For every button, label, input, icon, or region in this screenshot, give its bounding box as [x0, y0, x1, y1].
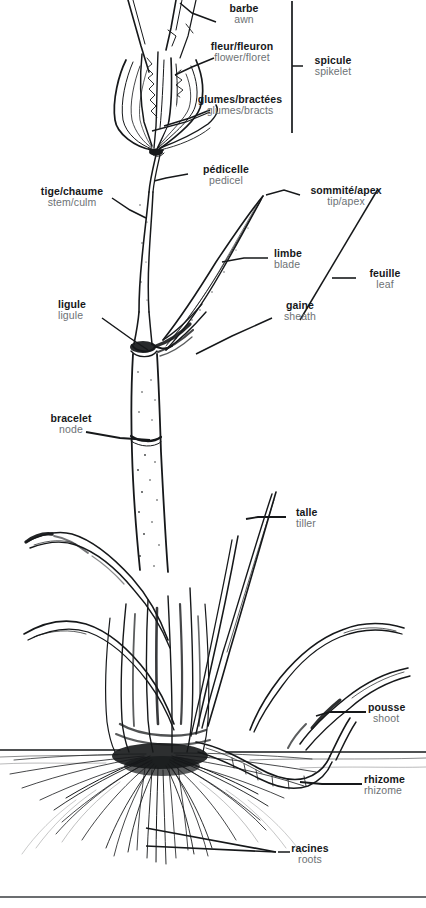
leader-sommite	[266, 190, 300, 195]
label-gaine: gaine sheath	[272, 300, 328, 321]
label-pousse-en: shoot	[368, 713, 424, 724]
label-tige: tige/chaume stem/culm	[30, 186, 114, 207]
plant-drawing	[0, 0, 426, 897]
label-rhizome-en: rhizome	[364, 785, 426, 796]
label-feuille: feuille leaf	[360, 268, 410, 289]
label-bracelet: bracelet node	[40, 413, 102, 434]
basal-leaves	[24, 492, 410, 752]
label-fleur-en: flower/floret	[190, 52, 294, 63]
label-ligule: ligule ligule	[58, 299, 108, 320]
label-ligule-en: ligule	[58, 310, 108, 321]
label-talle-en: tiller	[296, 518, 346, 529]
label-spicule-en: spikelet	[303, 66, 363, 77]
leader-rhizome	[300, 782, 362, 784]
label-sommite-en: tip/apex	[302, 196, 390, 207]
label-limbe-en: blade	[274, 259, 334, 270]
label-spicule: spicule spikelet	[303, 55, 363, 76]
label-gaine-en: sheath	[272, 311, 328, 322]
grass-anatomy-diagram: barbe awn fleur/fleuron flower/floret gl…	[0, 0, 426, 908]
label-glumes-en: glumes/bracts	[186, 105, 294, 116]
label-racines-en: roots	[280, 854, 340, 865]
label-pousse: pousse shoot	[368, 702, 424, 723]
leader-ligule	[102, 318, 148, 350]
label-fleur: fleur/fleuron flower/floret	[190, 41, 294, 62]
leader-gaine	[196, 318, 272, 354]
culm-stem	[130, 155, 168, 572]
leader-talle	[246, 517, 286, 519]
label-tige-en: stem/culm	[30, 197, 114, 208]
label-pedicelle-en: pedicel	[190, 175, 262, 186]
label-bracelet-en: node	[40, 424, 102, 435]
plant-illustration	[0, 0, 426, 908]
label-glumes: glumes/bractées glumes/bracts	[186, 94, 294, 115]
leader-tige	[112, 198, 146, 218]
label-feuille-en: leaf	[360, 279, 410, 290]
label-barbe-en: awn	[196, 14, 292, 25]
label-sommite: sommité/apex tip/apex	[302, 185, 390, 206]
label-pedicelle: pédicelle pedicel	[190, 164, 262, 185]
label-rhizome: rhizome rhizome	[364, 774, 426, 795]
label-talle: talle tiller	[296, 507, 346, 528]
upper-leaf	[152, 196, 263, 356]
label-limbe: limbe blade	[274, 248, 334, 269]
label-racines: racines roots	[280, 843, 340, 864]
label-barbe: barbe awn	[196, 3, 292, 24]
leader-pedicelle	[154, 174, 188, 181]
